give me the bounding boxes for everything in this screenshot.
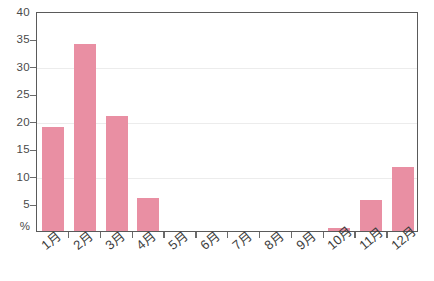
y-tick-mark <box>30 67 36 68</box>
y-axis: 403530252015105% <box>0 0 34 281</box>
y-tick-mark <box>30 95 36 96</box>
bar[interactable] <box>74 44 96 231</box>
bar-slot <box>228 13 260 231</box>
y-tick-label: 35 <box>17 34 30 46</box>
bar-slot <box>292 13 324 231</box>
y-tick-label: 25 <box>17 89 30 101</box>
bar-slot <box>69 13 101 231</box>
y-tick-mark <box>30 40 36 41</box>
plot-area <box>36 12 418 232</box>
bar-slot <box>164 13 196 231</box>
bar[interactable] <box>106 116 128 232</box>
bar-chart-figure: 403530252015105% 1月2月3月4月5月6月7月8月9月10月11… <box>0 0 434 281</box>
y-tick-mark <box>30 177 36 178</box>
y-tick-mark <box>30 122 36 123</box>
x-axis-labels: 1月2月3月4月5月6月7月8月9月10月11月12月 <box>36 238 418 281</box>
y-tick-label: 20 <box>17 117 30 129</box>
y-tick-label: 10 <box>17 172 30 184</box>
bar-slot <box>355 13 387 231</box>
y-tick-label: 30 <box>17 62 30 74</box>
bar[interactable] <box>392 167 414 231</box>
bar[interactable] <box>137 198 159 231</box>
bar-slot <box>37 13 69 231</box>
bar-slot <box>133 13 165 231</box>
y-tick-label: 5 <box>23 199 30 211</box>
y-tick-mark <box>30 150 36 151</box>
bar-slot <box>196 13 228 231</box>
bar-slot <box>101 13 133 231</box>
bar-slot <box>387 13 418 231</box>
y-tick-label: 40 <box>17 7 30 19</box>
bar-slot <box>260 13 292 231</box>
y-tick-label: 15 <box>17 144 30 156</box>
bars-series <box>37 13 417 231</box>
bar[interactable] <box>42 127 64 232</box>
bar-slot <box>324 13 356 231</box>
y-tick-mark <box>30 205 36 206</box>
y-axis-unit-label: % <box>20 221 30 233</box>
